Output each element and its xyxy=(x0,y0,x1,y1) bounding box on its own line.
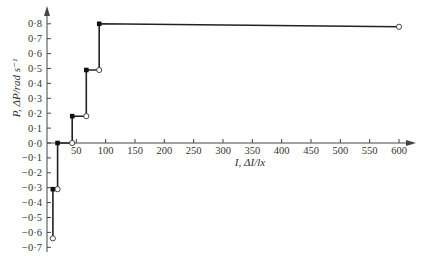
y-tick-label: −0·2 xyxy=(22,167,42,178)
x-tick-label: 350 xyxy=(244,145,260,156)
x-tick-label: 450 xyxy=(303,145,319,156)
y-axis-arrow-icon xyxy=(44,6,50,16)
y-tick-label: 0·2 xyxy=(28,108,42,119)
y-tick-label: −0·5 xyxy=(22,212,42,223)
filled-marker-icon xyxy=(55,141,60,146)
y-tick-label: 0·7 xyxy=(28,33,42,44)
open-marker-icon xyxy=(396,24,401,29)
open-marker-icon xyxy=(84,114,89,119)
filled-marker-icon xyxy=(97,22,102,27)
y-axis-label: P, ΔP/rad s⁻¹ xyxy=(10,59,22,118)
y-tick-label: 0·1 xyxy=(28,123,42,134)
open-marker-icon xyxy=(50,236,55,241)
y-tick-label: 0·3 xyxy=(28,93,42,104)
x-tick-label: 100 xyxy=(98,145,114,156)
filled-marker-icon xyxy=(51,187,56,192)
y-tick-label: 0·6 xyxy=(28,48,42,59)
x-axis-label: I, ΔI/lx xyxy=(234,156,265,168)
open-marker-icon xyxy=(70,140,75,145)
x-tick-label: 200 xyxy=(156,145,172,156)
filled-marker-icon xyxy=(84,68,89,73)
x-tick-label: 150 xyxy=(127,145,143,156)
open-marker-icon xyxy=(97,67,102,72)
step-line xyxy=(53,24,399,239)
y-tick-label: 0·4 xyxy=(28,78,43,89)
x-tick-label: 300 xyxy=(215,145,231,156)
y-tick-label: −0·1 xyxy=(22,152,42,163)
y-tick-label: −0·6 xyxy=(22,227,42,238)
y-tick-label: 0·8 xyxy=(28,18,42,29)
y-tick-label: 0·0 xyxy=(28,138,42,149)
y-tick-label: −0·3 xyxy=(22,182,42,193)
y-tick-label: 0·5 xyxy=(28,63,42,74)
x-tick-label: 500 xyxy=(332,145,348,156)
axes: 0·80·70·60·50·40·30·20·10·0−0·1−0·2−0·3−… xyxy=(22,6,416,253)
step-chart: 0·80·70·60·50·40·30·20·10·0−0·1−0·2−0·3−… xyxy=(0,0,423,265)
x-tick-label: 250 xyxy=(186,145,202,156)
x-tick-label: 550 xyxy=(362,145,378,156)
y-tick-label: −0·7 xyxy=(22,242,42,253)
y-tick-label: −0·4 xyxy=(22,197,43,208)
x-tick-label: 400 xyxy=(274,145,290,156)
x-tick-label: 600 xyxy=(391,145,407,156)
filled-marker-icon xyxy=(70,114,75,119)
open-marker-icon xyxy=(55,187,60,192)
x-axis-arrow-icon xyxy=(406,140,416,146)
plot-area xyxy=(50,22,401,241)
x-tick-label: 50 xyxy=(71,145,82,156)
